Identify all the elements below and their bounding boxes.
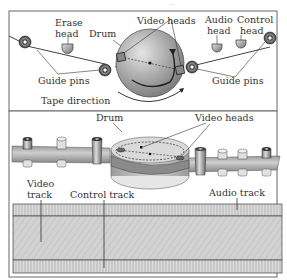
- guide-post-4-icon: [195, 147, 206, 175]
- drum-center-icon: [148, 61, 151, 64]
- label-control-track: Control track: [70, 189, 135, 200]
- label-guide-pins-left: Guide pins: [38, 75, 90, 86]
- video-head-bottom-left-icon: [117, 148, 125, 152]
- audio-track-band: [13, 204, 282, 216]
- guide-post-1-icon: [23, 137, 32, 149]
- label-drum-top: Drum: [89, 28, 116, 39]
- guide-post-6-icon: [238, 149, 247, 159]
- guide-pin-mid-right-icon: [186, 61, 198, 73]
- erase-head-icon: [62, 44, 73, 54]
- guide-pin-top-right-icon: [264, 32, 276, 44]
- control-track-band: [13, 260, 282, 273]
- guide-post-2-icon: [57, 137, 66, 149]
- label-audio-track: Audio track: [208, 187, 265, 198]
- guide-pin-mid-left-icon: [99, 64, 111, 76]
- vcr-head-diagram: Erase head Drum Video heads Audio head C…: [0, 0, 287, 280]
- label-video-heads-bottom: Video heads: [194, 112, 254, 123]
- label-video-track-1: Video: [26, 178, 54, 189]
- tape-track-strip: [13, 204, 282, 273]
- label-tape-direction: Tape direction: [41, 95, 110, 106]
- label-audio-head-2: head: [207, 25, 231, 36]
- label-control-head-1: Control: [237, 14, 273, 25]
- label-video-track-2: track: [27, 189, 52, 200]
- video-head-bottom-right-icon: [176, 156, 184, 160]
- guide-post-3-icon: [92, 137, 102, 164]
- guide-pin-top-left-icon: [19, 36, 31, 48]
- video-head-left-icon: [116, 52, 125, 61]
- guide-post-5-icon: [218, 149, 227, 159]
- guide-post-7-icon: [262, 147, 271, 158]
- audio-head-icon: [212, 44, 222, 52]
- label-video-heads-top: Video heads: [136, 15, 196, 26]
- video-head-right-icon: [175, 65, 184, 74]
- label-drum-bottom: Drum: [96, 112, 123, 123]
- label-erase-head-2: head: [55, 28, 79, 39]
- label-erase-head-1: Erase: [55, 17, 83, 28]
- drum-cylinder: [111, 137, 189, 189]
- label-control-head-2: head: [240, 25, 264, 36]
- control-head-icon: [236, 40, 246, 48]
- video-track-band: [13, 216, 282, 260]
- label-guide-pins-right: Guide pins: [212, 75, 264, 86]
- label-audio-head-1: Audio: [204, 14, 233, 25]
